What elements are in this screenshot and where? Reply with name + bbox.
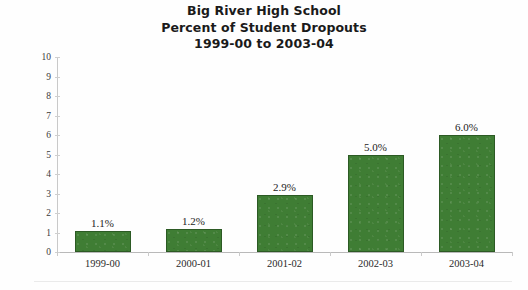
y-axis-tick-label: 8 <box>46 91 51 101</box>
bar[interactable]: 5.0% <box>348 155 404 253</box>
chart-title-line-2: Percent of Student Dropouts <box>0 20 528 37</box>
y-axis-tick-label: 3 <box>46 189 51 199</box>
x-axis-category-label: 2002-03 <box>330 258 421 269</box>
y-axis-tick-label: 4 <box>46 169 51 179</box>
plot-area: 109876543210 1999-002000-012001-022002-0… <box>57 57 512 253</box>
x-axis-tick <box>421 252 422 256</box>
x-axis-tick <box>148 252 149 256</box>
bar[interactable]: 6.0% <box>439 135 495 252</box>
chart-title: Big River High School Percent of Student… <box>0 3 528 53</box>
chart-page: Big River High School Percent of Student… <box>0 0 528 290</box>
y-axis-tick-label: 0 <box>46 247 51 257</box>
bar-group: 6.0% <box>421 57 512 252</box>
y-axis-tick-label: 10 <box>42 52 52 62</box>
x-axis-tick <box>512 252 513 256</box>
x-axis-category-label: 1999-00 <box>57 258 148 269</box>
x-axis-tick <box>239 252 240 256</box>
chart-title-line-1: Big River High School <box>0 3 528 20</box>
x-axis-line <box>57 252 512 253</box>
chart-title-line-3: 1999-00 to 2003-04 <box>0 36 528 53</box>
bar[interactable]: 1.1% <box>75 231 131 252</box>
x-axis-category-label: 2001-02 <box>239 258 330 269</box>
y-axis-tick-label: 5 <box>46 150 51 160</box>
y-axis-tick-label: 7 <box>46 111 51 121</box>
x-axis-tick <box>57 252 58 256</box>
bar-group: 2.9% <box>239 57 330 252</box>
y-axis-tick-label: 9 <box>46 72 51 82</box>
bar-value-label: 5.0% <box>364 141 387 153</box>
bar-value-label: 1.1% <box>91 217 114 229</box>
bar-value-label: 1.2% <box>182 215 205 227</box>
bottom-rule <box>34 281 512 282</box>
y-axis-tick-label: 2 <box>46 208 51 218</box>
bar-group: 1.2% <box>148 57 239 252</box>
x-axis-category-label: 2000-01 <box>148 258 239 269</box>
y-axis-tick-label: 6 <box>46 130 51 140</box>
x-axis-category-label: 2003-04 <box>421 258 512 269</box>
y-axis-tick-label: 1 <box>46 228 51 238</box>
x-axis-tick <box>330 252 331 256</box>
bar-group: 5.0% <box>330 57 421 252</box>
bar-value-label: 2.9% <box>273 181 296 193</box>
bar[interactable]: 2.9% <box>257 195 313 252</box>
bar[interactable]: 1.2% <box>166 229 222 252</box>
bar-group: 1.1% <box>57 57 148 252</box>
bar-value-label: 6.0% <box>455 121 478 133</box>
